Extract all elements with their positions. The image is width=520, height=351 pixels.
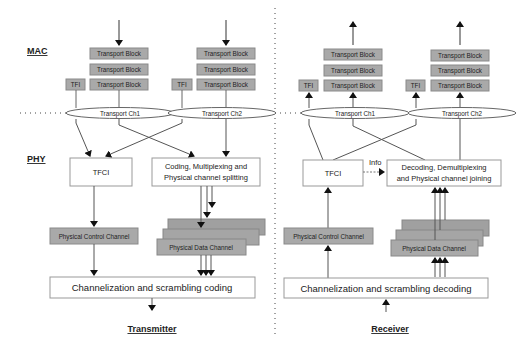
tx-coding-line1: Coding, Multiplexing and: [165, 162, 247, 171]
rx-channelization-label: Channelization and scrambling decoding: [300, 283, 471, 294]
transport-block: Transport Block: [438, 52, 483, 60]
transport-block: Transport Block: [97, 50, 142, 58]
tx-ch1-blocks: Transport Block Transport Block Transpor…: [66, 48, 148, 90]
tx-transport-ch1-label: Transport Ch1: [100, 110, 141, 118]
tx-coding-line2: Physical channel splitting: [164, 173, 248, 182]
transport-block: Transport Block: [438, 67, 483, 75]
transmitter-section: Transport Block Transport Block Transpor…: [50, 20, 276, 334]
rx-physical-data-channel-label: Physical Data Channel: [402, 245, 466, 253]
rx-transport-ch2-label: Transport Ch2: [442, 110, 483, 118]
transmitter-title: Transmitter: [127, 324, 177, 334]
tfi-label: TFI: [304, 82, 314, 89]
tx-channelization-label: Channelization and scrambling coding: [72, 282, 233, 293]
tfi-label: TFI: [177, 81, 187, 88]
info-label: Info: [369, 158, 382, 167]
rx-transport-ch1-label: Transport Ch1: [335, 110, 376, 118]
rx-tfci-label: TFCI: [325, 169, 342, 178]
rx-ch1-blocks: Transport Block Transport Block Transpor…: [299, 49, 382, 91]
phy-label: PHY: [27, 154, 46, 164]
transport-block: Transport Block: [97, 66, 142, 74]
tx-ch2-blocks: Transport Block Transport Block Transpor…: [172, 48, 255, 90]
transport-block: Transport Block: [331, 82, 376, 90]
rx-decoding-line1: Decoding, Demultiplexing: [401, 163, 486, 172]
transport-block: Transport Block: [438, 82, 483, 90]
transport-block: Transport Block: [204, 50, 249, 58]
transport-block: Transport Block: [204, 81, 249, 89]
transport-channel-diagram: MAC PHY Transport Block Transport Block …: [0, 0, 520, 351]
transport-block: Transport Block: [331, 51, 376, 59]
transport-block: Transport Block: [331, 67, 376, 75]
transport-block: Transport Block: [97, 81, 142, 89]
tfi-label: TFI: [411, 82, 421, 89]
rx-decoding-line2: and Physical channel joining: [397, 174, 492, 183]
transport-block: Transport Block: [204, 66, 249, 74]
tx-tfci-label: TFCI: [93, 168, 110, 177]
rx-ch2-blocks: Transport Block Transport Block Transpor…: [406, 50, 489, 91]
rx-physical-control-channel-label: Physical Control Channel: [293, 233, 364, 241]
tx-physical-data-channel-label: Physical Data Channel: [169, 244, 233, 252]
mac-label: MAC: [27, 46, 48, 56]
tfi-label: TFI: [71, 81, 81, 88]
tx-transport-ch2-label: Transport Ch2: [202, 110, 243, 118]
receiver-title: Receiver: [371, 324, 409, 334]
receiver-section: Transport Block Transport Block Transpor…: [284, 22, 516, 334]
tx-physical-control-channel-label: Physical Control Channel: [59, 233, 130, 241]
